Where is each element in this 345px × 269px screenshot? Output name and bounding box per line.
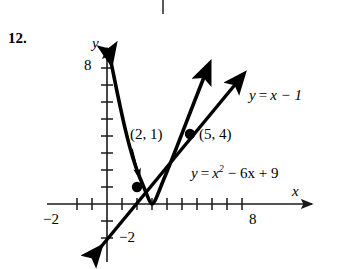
equation-parabola-base: x <box>212 165 219 181</box>
equation-line-lhs: y <box>249 87 256 103</box>
equation-parabola-lhs: y <box>191 165 198 181</box>
intersection-point-2-1 <box>132 182 142 192</box>
point-label-5-4: (5, 4) <box>199 127 232 142</box>
point-label-2-1: (2, 1) <box>130 127 163 142</box>
x-axis <box>47 198 312 210</box>
figure-page: 12. <box>0 0 345 269</box>
y-axis <box>101 48 113 262</box>
equation-parabola-equals: = <box>201 165 209 181</box>
x-tick-label-negative-2: −2 <box>43 212 59 227</box>
x-axis-label: x <box>292 184 299 199</box>
x-tick-label-8: 8 <box>249 212 257 227</box>
equation-line-equals: = <box>259 87 267 103</box>
equation-label-parabola: y=x2− 6x + 9 <box>191 164 278 181</box>
equation-parabola-exponent: 2 <box>219 163 224 174</box>
graph-canvas <box>0 0 345 269</box>
equation-line-rhs: x − 1 <box>270 87 302 103</box>
y-tick-label-negative-2: −2 <box>119 230 135 245</box>
y-tick-label-8: 8 <box>84 58 92 73</box>
equation-parabola-tail: − 6x + 9 <box>228 165 279 181</box>
intersection-point-5-4 <box>185 129 195 139</box>
equation-label-line: y=x − 1 <box>249 88 302 103</box>
y-axis-label: y <box>92 36 99 51</box>
